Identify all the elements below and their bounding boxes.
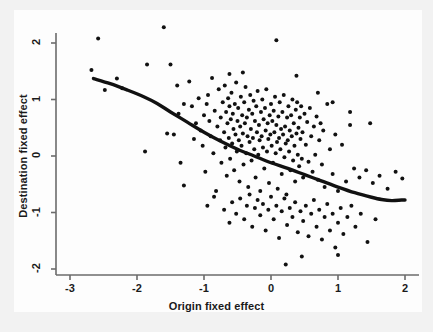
data-point [264,129,268,133]
data-point [293,200,297,204]
data-point [246,134,250,138]
y-tick-label: -1 [30,200,42,224]
data-point [211,151,215,155]
data-point [245,204,249,208]
panel-background [14,10,422,312]
data-point [348,123,352,127]
data-point [265,149,269,153]
data-point [284,262,288,266]
data-point [378,174,382,178]
data-point [115,77,119,81]
data-point [286,104,290,108]
data-point [269,102,273,106]
data-point [282,196,286,200]
data-point [269,195,273,199]
data-point [227,221,231,225]
data-point [202,113,206,117]
data-point [290,134,294,138]
data-point [348,110,352,114]
data-point [240,144,244,148]
data-point [252,147,256,151]
data-point [251,136,255,140]
data-point [222,208,226,212]
data-point [344,179,348,183]
data-point [294,108,298,112]
x-tick-label: 0 [259,282,283,294]
data-point [232,168,236,172]
data-point [175,83,179,87]
data-point [315,225,319,229]
data-point [328,147,332,151]
data-point [272,217,276,221]
data-point [239,95,243,99]
data-point [254,104,258,108]
data-point [261,202,265,206]
x-tick-label: -2 [125,282,149,294]
data-point [340,143,344,147]
data-point [298,116,302,120]
x-tick-label: -1 [192,282,216,294]
data-point [331,100,335,104]
data-point [308,106,312,110]
data-point [225,174,229,178]
data-point [300,130,304,134]
data-point [264,229,268,233]
data-point [249,127,253,131]
data-point [312,125,316,129]
data-point [297,164,301,168]
data-point [259,110,263,114]
data-point [222,130,226,134]
data-point [227,72,231,76]
data-point [89,68,93,72]
data-point [277,136,281,140]
data-point [276,187,280,191]
data-point [258,213,262,217]
x-tick-label: -3 [58,282,82,294]
data-point [278,100,282,104]
data-point [266,121,270,125]
data-point [252,99,256,103]
data-point [237,138,241,142]
data-point [290,215,294,219]
data-point [368,121,372,125]
data-point [255,130,259,134]
data-point [364,168,368,172]
data-point [289,113,293,117]
data-point [270,144,274,148]
data-point [248,93,252,97]
data-point [264,87,268,91]
data-point [254,175,258,179]
data-point [298,209,302,213]
data-point [212,195,216,199]
data-point [273,95,277,99]
data-point [280,110,284,114]
data-point [267,181,271,185]
data-point [205,204,209,208]
data-point [292,144,296,148]
data-point [288,129,292,133]
y-tick-label: -2 [30,256,42,280]
data-point [257,123,261,127]
data-point [309,134,313,138]
data-point [248,192,252,196]
data-point [300,255,304,259]
data-point [336,221,340,225]
data-point [238,125,242,129]
data-point [284,142,288,146]
y-tick-label: 1 [30,87,42,111]
data-point [296,230,300,234]
data-point [221,100,225,104]
x-tick-label: 2 [393,282,417,294]
data-point [213,109,217,113]
data-point [219,161,223,165]
data-point [333,133,337,137]
data-point [240,113,244,117]
data-point [374,217,378,221]
data-point [250,225,254,229]
y-axis-title: Destination fixed effect [17,56,29,256]
data-point [283,125,287,129]
data-point [227,136,231,140]
data-point [242,217,246,221]
data-point [242,100,246,104]
data-point [219,116,223,120]
